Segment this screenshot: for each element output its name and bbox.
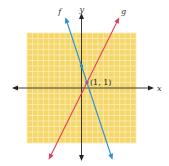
- data-point: [80, 64, 84, 68]
- x-axis-label: x: [157, 84, 162, 93]
- x-axis-arrow-left: [12, 86, 18, 91]
- point-annotation: (1, 1): [90, 78, 112, 87]
- series-arrow-f: [108, 153, 113, 159]
- series-label-g: g: [121, 7, 126, 16]
- y-axis-arrow-down: [79, 155, 84, 161]
- y-axis-label: y: [79, 5, 85, 14]
- series-label-f: f: [57, 7, 63, 16]
- x-axis-arrow-right: [148, 86, 154, 91]
- series-arrow-f: [65, 17, 70, 23]
- chart: f g x y (1, 1): [0, 0, 169, 166]
